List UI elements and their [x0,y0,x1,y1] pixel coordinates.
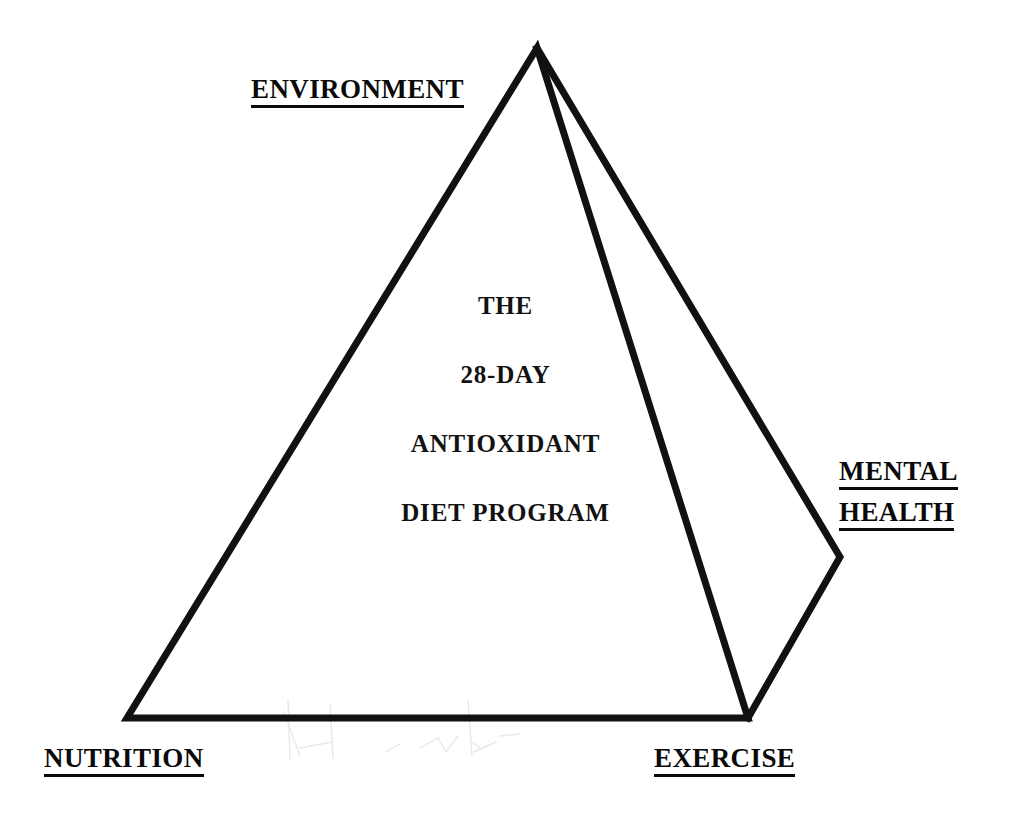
scan-artifact-marks [284,700,520,760]
center-title-block: THE 28-DAY ANTIOXIDANT DIET PROGRAM [348,292,663,527]
vertex-label-mental-health: MENTAL HEALTH [839,456,958,531]
center-title-line-2: 28-DAY [348,361,663,389]
vertex-label-environment-text: ENVIRONMENT [251,74,464,108]
vertex-label-nutrition: NUTRITION [44,743,204,777]
center-title-line-4: DIET PROGRAM [348,499,663,527]
vertex-label-exercise-text: EXERCISE [654,743,795,777]
vertex-label-mental-health-line-2: HEALTH [839,497,954,531]
center-title-line-3: ANTIOXIDANT [348,430,663,458]
vertex-label-nutrition-text: NUTRITION [44,743,204,777]
vertex-label-environment: ENVIRONMENT [251,74,464,108]
vertex-label-mental-health-line-1: MENTAL [839,456,958,490]
pyramid-diagram-canvas: ENVIRONMENT NUTRITION EXERCISE MENTAL HE… [0,0,1017,830]
center-title-line-1: THE [348,292,663,320]
vertex-label-exercise: EXERCISE [654,743,795,777]
